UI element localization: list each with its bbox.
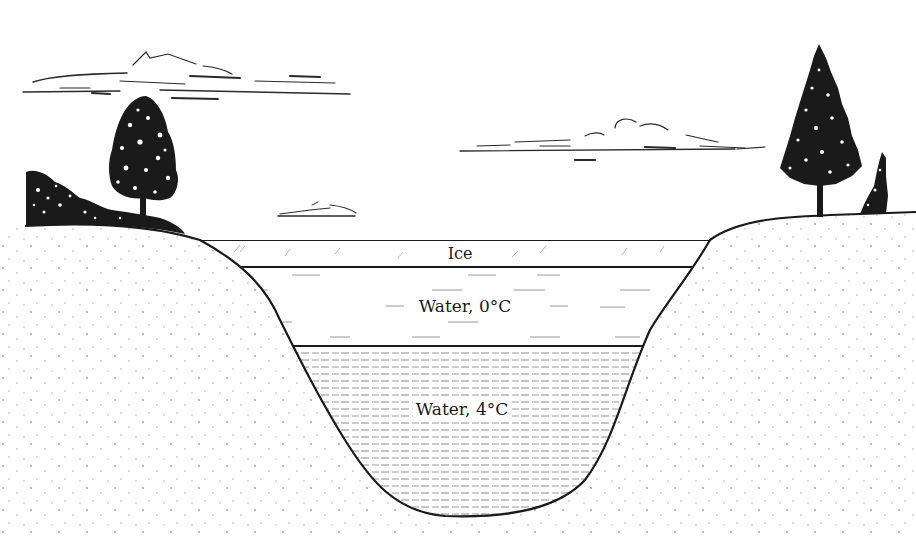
small-conifer-far-right — [860, 152, 888, 214]
lake-cross-section-diagram: Ice Water, 0°C Water, 4°C — [0, 0, 916, 536]
ice-label: Ice — [448, 244, 473, 263]
deciduous-tree-left — [109, 96, 178, 222]
water-4c-label: Water, 4°C — [413, 399, 511, 419]
conifer-tree-right — [780, 44, 862, 217]
cloud-upper-left — [23, 52, 350, 99]
water-0c-label: Water, 0°C — [419, 296, 511, 316]
cloud-center-right — [460, 119, 765, 160]
cloud-small-center — [278, 202, 356, 216]
